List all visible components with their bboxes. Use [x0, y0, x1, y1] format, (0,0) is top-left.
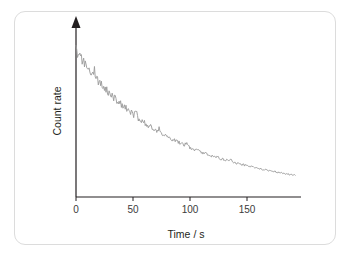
x-tick-label-50: 50	[127, 204, 139, 215]
x-axis-title: Time / s	[168, 228, 205, 240]
x-tick-label-0: 0	[73, 204, 79, 215]
x-tick-label-150: 150	[239, 204, 256, 215]
decay-chart: 0 50 100 150 Time / s Count rate	[0, 0, 349, 263]
x-tick-label-100: 100	[182, 204, 199, 215]
x-axis-ticks	[76, 197, 247, 201]
y-axis-arrow-icon	[72, 16, 81, 28]
decay-curve	[76, 45, 295, 175]
y-axis-title: Count rate	[51, 86, 63, 135]
